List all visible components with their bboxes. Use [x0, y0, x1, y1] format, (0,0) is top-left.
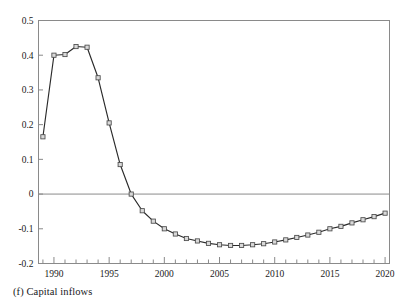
x-tick-label: 2020	[376, 269, 395, 279]
x-tick-label: 2005	[210, 269, 229, 279]
y-tick-label: -0.1	[18, 224, 33, 234]
x-tick-label: 2010	[265, 269, 284, 279]
series-data-point	[350, 221, 354, 225]
series-data-point	[107, 121, 111, 125]
series-data-point	[195, 239, 199, 243]
series-data-point	[63, 52, 67, 56]
series-data-point	[96, 76, 100, 80]
y-tick-label: 0.5	[22, 16, 34, 26]
x-tick-label: 2015	[320, 269, 339, 279]
series-data-point	[173, 232, 177, 236]
series-data-point	[273, 240, 277, 244]
series-data-point	[306, 233, 310, 237]
x-tick-label: 1995	[100, 269, 119, 279]
y-tick-label: -0.2	[18, 259, 33, 269]
series-data-point	[228, 243, 232, 247]
y-tick-label: 0.3	[22, 85, 34, 95]
series-data-point	[339, 224, 343, 228]
series-data-point	[383, 211, 387, 215]
series-data-point	[284, 238, 288, 242]
figure-caption: (f) Capital inflows	[13, 286, 92, 297]
series-data-point	[151, 219, 155, 223]
series-data-point	[41, 135, 45, 139]
figure-panel: 0.50.40.30.20.10-0.1-0.21990199520002005…	[0, 0, 416, 307]
series-data-point	[361, 218, 365, 222]
series-data-point	[184, 236, 188, 240]
series-data-point	[74, 44, 78, 48]
series-data-point	[295, 235, 299, 239]
series-data-point	[262, 242, 266, 246]
capital-inflows-line-chart: 0.50.40.30.20.10-0.1-0.21990199520002005…	[0, 0, 416, 307]
series-line-capital-inflows	[43, 47, 385, 246]
series-data-point	[206, 241, 210, 245]
series-data-point	[85, 45, 89, 49]
y-tick-label: 0.1	[22, 155, 34, 165]
series-data-point	[140, 209, 144, 213]
series-data-point	[118, 162, 122, 166]
y-tick-label: 0.2	[22, 120, 34, 130]
series-data-point	[372, 215, 376, 219]
y-tick-label: 0.4	[22, 51, 34, 61]
y-tick-label: 0	[29, 189, 34, 199]
x-tick-label: 2000	[155, 269, 174, 279]
series-data-point	[52, 53, 56, 57]
series-data-point	[328, 227, 332, 231]
series-data-point	[251, 243, 255, 247]
x-tick-label: 1990	[44, 269, 63, 279]
series-data-point	[239, 243, 243, 247]
series-data-point	[317, 230, 321, 234]
series-data-point	[129, 192, 133, 196]
series-data-point	[217, 243, 221, 247]
series-data-point	[162, 227, 166, 231]
